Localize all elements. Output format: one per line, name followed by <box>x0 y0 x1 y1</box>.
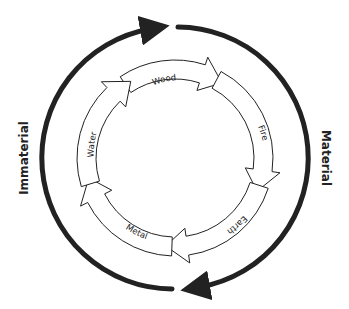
material-label: Material <box>319 130 333 186</box>
water-arrow-segment <box>77 81 131 186</box>
cycle-diagram: Wood Fire Earth Metal Water Immaterial M… <box>0 0 349 309</box>
metal-arrow-segment <box>81 178 173 256</box>
earth-arrow-segment <box>166 182 268 263</box>
immaterial-label: Immaterial <box>17 121 31 195</box>
fire-arrow-segment <box>212 71 280 191</box>
element-cycle-ring <box>77 57 280 263</box>
